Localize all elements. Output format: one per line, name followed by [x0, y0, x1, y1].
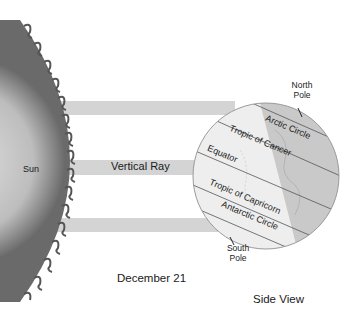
sun-icon — [0, 20, 75, 302]
date-label: December 21 — [117, 273, 186, 283]
vertical-ray-label: Vertical Ray — [111, 161, 170, 171]
sun-label: Sun — [23, 164, 39, 174]
north-pole-label-line2: Pole — [286, 91, 318, 101]
south-pole-label-line2: Pole — [222, 254, 254, 264]
ray-top — [55, 101, 235, 115]
north-pole-label: North Pole — [286, 81, 318, 100]
view-label: Side View — [253, 294, 304, 304]
south-pole-label: South Pole — [222, 244, 254, 263]
